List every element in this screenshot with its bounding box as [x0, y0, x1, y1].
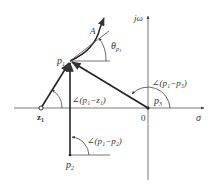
departure-angle-label: θp1 [111, 40, 121, 53]
point-label-p2: p2 [65, 159, 74, 171]
locus-point-label-A: A [89, 26, 96, 36]
angle-arc-z1 [52, 90, 62, 108]
pole-p2-marker [69, 154, 72, 157]
angle-label-p1-p2: ∠(p₁−p₂) [87, 136, 122, 146]
origin-label: 0 [141, 113, 146, 123]
root-locus-diagram: jω σ 0 p1 p2 p3 z1 A θp1 ∠(p₁−z₁) ∠(p₁−p… [0, 0, 215, 190]
imag-axis-label: jω [133, 13, 143, 23]
angle-arc-theta-p1 [99, 38, 106, 61]
angle-label-p1-z1: ∠(p₁−z₁) [72, 95, 106, 105]
point-label-z1: z1 [37, 112, 44, 123]
pole-p3-marker [147, 107, 150, 110]
zero-z1-marker [39, 106, 43, 110]
angle-label-p1-p3: ∠(p₁−p₃) [152, 78, 187, 88]
vector-z1-to-p1 [41, 63, 69, 108]
point-label-p3: p3 [153, 95, 162, 107]
angle-arc-p3 [132, 87, 170, 108]
point-label-p1: p1 [56, 55, 65, 67]
root-locus-branch [70, 18, 104, 61]
real-axis-label: σ [196, 112, 202, 123]
